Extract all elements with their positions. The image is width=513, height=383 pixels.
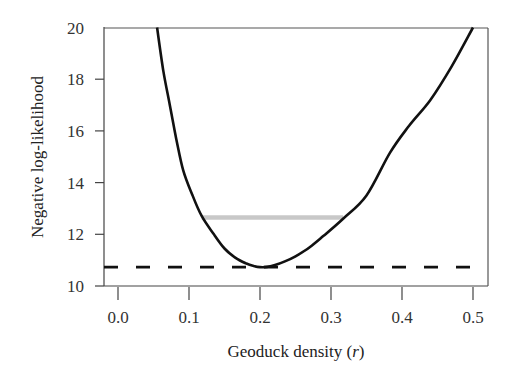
x-tick-label: 0.2 [249,308,270,327]
chart-svg: 101214161820 0.00.10.20.30.40.5 Geoduck … [0,0,513,383]
x-tick-label: 0.4 [391,308,413,327]
y-ticks: 101214161820 [67,19,104,297]
y-tick-label: 18 [67,70,84,89]
x-axis-label: Geoduck density (r) [228,342,365,361]
y-tick-label: 10 [67,277,84,296]
nll-curve [157,28,473,268]
y-axis-label: Negative log-likelihood [28,76,47,238]
y-tick-label: 12 [67,225,84,244]
x-ticks: 0.00.10.20.30.40.5 [107,287,483,327]
y-tick-label: 14 [67,174,85,193]
x-tick-label: 0.0 [107,308,128,327]
y-tick-label: 16 [67,122,84,141]
x-tick-label: 0.3 [320,308,341,327]
y-tick-label: 20 [67,19,84,38]
x-tick-label: 0.1 [178,308,199,327]
series-group [104,28,488,268]
x-tick-label: 0.5 [462,308,483,327]
